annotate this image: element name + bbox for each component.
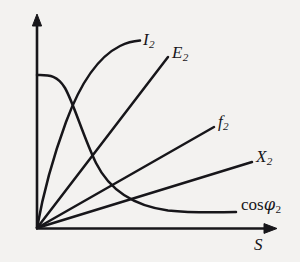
y-axis-arrowhead	[32, 14, 41, 26]
curve-label-X2-sub: 2	[267, 155, 273, 167]
curve-label-X2: X2	[256, 148, 272, 167]
curve-label-I2-sub: 2	[149, 38, 155, 50]
curve-X2	[37, 162, 252, 228]
curve-label-I2: I2	[143, 31, 155, 50]
curve-label-E2: E2	[172, 44, 188, 63]
curve-label-f2-sub: 2	[223, 120, 229, 132]
curve-label-cos-phi-glyph: φ	[264, 195, 275, 214]
curve-label-cos-sub: 2	[275, 203, 281, 215]
curve-E2	[37, 57, 168, 228]
curve-label-f2: f2	[218, 113, 229, 132]
curve-label-E2-sub: 2	[183, 51, 189, 63]
x-axis-label: S	[254, 236, 263, 253]
figure-canvas: I2 E2 f2 X2 cosφ2 S	[0, 0, 300, 262]
curve-label-E2-text: E	[172, 43, 182, 62]
curve-cos-phi2	[37, 75, 236, 212]
curve-label-cos-phi2: cosφ2	[241, 196, 281, 215]
curve-label-X2-text: X	[256, 147, 266, 166]
curve-label-I2-text: I	[143, 30, 149, 49]
x-axis-arrowhead	[264, 224, 277, 234]
curve-label-cos-text: cos	[241, 195, 264, 214]
